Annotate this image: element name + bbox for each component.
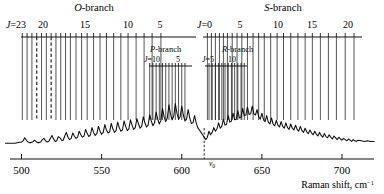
- o-branch-label-tick-10: 10: [123, 19, 133, 30]
- o-branch-title: O-branch: [74, 2, 114, 13]
- p-branch-label-tick-5: 5: [176, 55, 180, 64]
- x-tick-label-700: 700: [334, 164, 351, 176]
- p-branch-title: P-branch: [149, 44, 182, 54]
- r-branch-title: R-branch: [221, 44, 254, 54]
- x-axis: 500550600650700 Raman shift, cm−1: [10, 154, 374, 190]
- x-axis-ticks: [22, 154, 343, 159]
- s-branch-label-j-0: J=0: [197, 19, 212, 30]
- r-branch-label-j-5: J=5: [202, 55, 214, 64]
- branch-titles: O-branch S-branch P-branch R-branch: [74, 2, 302, 54]
- o-branch-label-tick-20: 20: [38, 19, 48, 30]
- s-branch-label-tick-20: 20: [343, 19, 353, 30]
- s-branch-label-tick-15: 15: [307, 19, 317, 30]
- s-branch-label-tick-5: 5: [238, 19, 243, 30]
- j-quantum-number-labels: J=232015105J=05101520J=105J=510: [6, 19, 353, 64]
- raman-spectrum-figure: O-branch S-branch P-branch R-branch J=23…: [0, 0, 384, 194]
- x-axis-title: Raman shift, cm−1: [301, 179, 374, 191]
- x-tick-label-650: 650: [254, 164, 271, 176]
- x-tick-label-550: 550: [93, 164, 110, 176]
- o-branch-label-tick-5: 5: [158, 19, 163, 30]
- figure-canvas: O-branch S-branch P-branch R-branch J=23…: [0, 0, 384, 194]
- nu0-label: ν0: [209, 159, 215, 169]
- o-branch-label-tick-15: 15: [80, 19, 90, 30]
- s-branch-label-tick-10: 10: [273, 19, 283, 30]
- x-tick-label-500: 500: [13, 164, 30, 176]
- x-tick-label-600: 600: [174, 164, 191, 176]
- x-axis-tick-labels: 500550600650700: [13, 164, 351, 176]
- assignment-combs: [21, 33, 362, 120]
- o-branch-label-j-23: J=23: [6, 19, 26, 30]
- s-branch-title: S-branch: [264, 2, 302, 13]
